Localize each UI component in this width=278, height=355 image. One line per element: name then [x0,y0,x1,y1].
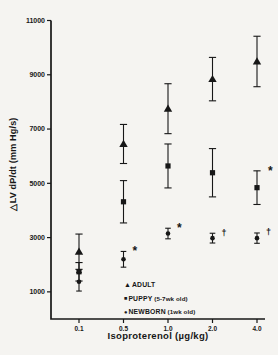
puppy-point [121,199,126,204]
y-tick-label: 5000 [29,180,45,187]
newborn-point [255,236,260,241]
legend-note: (1wk old) [166,308,196,315]
circle-icon: ● [124,307,128,318]
adult-point [253,57,261,64]
newborn-point [210,236,215,241]
figure: 10003000500070009000110000.10.51.02.04.0… [0,0,278,355]
legend-note: (5-7wk old) [152,295,187,302]
legend: ▲ADULT■PUPPY (5-7wk old)●NEWBORN (1wk ol… [124,277,195,317]
y-tick-label: 3000 [29,234,45,241]
legend-item: ■PUPPY (5-7wk old) [124,291,195,304]
significance-marker: * [133,244,138,258]
significance-marker: * [177,221,182,235]
y-tick-label: 1000 [29,288,45,295]
newborn-point [77,280,82,285]
puppy-point [165,163,170,168]
triangle-icon: ▲ [124,280,131,291]
legend-label: ADULT [132,281,156,288]
adult-point [75,248,83,255]
significance-marker: † [266,227,271,237]
newborn-point [166,231,171,236]
adult-point [119,140,127,147]
y-tick-label: 7000 [29,125,45,132]
legend-label: NEWBORN [129,308,166,315]
legend-label: PUPPY [128,295,152,302]
y-tick-label: 11000 [26,17,45,24]
significance-marker: * [268,164,273,178]
x-axis-title: Isoproterenol (µg/kg) [51,330,265,341]
legend-item: ●NEWBORN (1wk old) [124,304,195,317]
adult-point [164,104,172,111]
significance-marker: † [222,228,227,238]
newborn-point [121,257,126,262]
puppy-point [210,170,215,175]
square-icon: ■ [124,293,127,304]
adult-point [208,75,216,82]
y-tick-label: 9000 [29,71,45,78]
puppy-point [254,185,259,190]
legend-item: ▲ADULT [124,277,195,291]
y-axis-title: △LV dP/dt (mm Hg/s) [8,117,18,210]
axes [51,21,265,320]
